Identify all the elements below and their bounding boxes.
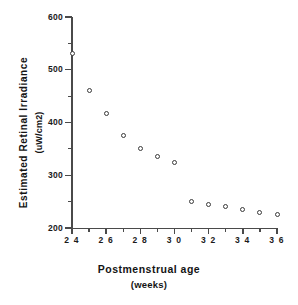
x-tick-major xyxy=(105,228,106,234)
x-tick-major xyxy=(140,228,141,234)
data-point xyxy=(240,207,245,212)
x-tick-label: 3 2 xyxy=(192,236,226,245)
x-axis-title: Postmenstrual age (weeks) xyxy=(0,262,298,292)
data-point xyxy=(138,146,143,151)
x-tick-label: 3 6 xyxy=(260,236,294,245)
x-axis-title-text: Postmenstrual age xyxy=(0,262,298,278)
x-tick-minor xyxy=(123,228,124,232)
x-tick-minor xyxy=(225,228,226,232)
data-points-layer xyxy=(72,17,277,228)
x-tick-minor xyxy=(88,228,89,232)
x-tick-major xyxy=(242,228,243,234)
y-tick-label: 600 xyxy=(31,13,63,22)
data-point xyxy=(121,133,126,138)
x-tick-label: 3 4 xyxy=(226,236,260,245)
data-point xyxy=(206,202,211,207)
y-axis-title-units: (uW/cm2) xyxy=(33,111,43,153)
x-tick-label: 2 4 xyxy=(55,236,89,245)
data-point xyxy=(155,154,160,159)
y-tick-major xyxy=(65,175,72,176)
scatter-chart-figure: 200300400500600 2 42 62 83 03 23 43 6 Es… xyxy=(0,0,298,305)
x-tick-label: 2 8 xyxy=(123,236,157,245)
y-tick-major xyxy=(65,16,72,17)
x-tick-major xyxy=(208,228,209,234)
data-point xyxy=(275,212,280,217)
x-tick-label: 2 6 xyxy=(89,236,123,245)
x-tick-label: 3 0 xyxy=(158,236,192,245)
x-axis-title-units: (weeks) xyxy=(0,278,298,292)
data-point xyxy=(189,199,194,204)
data-point xyxy=(172,160,177,165)
x-tick-major xyxy=(71,228,72,234)
x-tick-minor xyxy=(157,228,158,232)
y-axis-title-text: Estimated Retinal Irradiance xyxy=(18,57,29,208)
data-point xyxy=(104,111,109,116)
data-point xyxy=(87,88,92,93)
data-point xyxy=(223,204,228,209)
x-tick-major xyxy=(276,228,277,234)
y-axis-title: Estimated Retinal Irradiance (uW/cm2) xyxy=(17,38,46,228)
x-tick-major xyxy=(174,228,175,234)
x-tick-minor xyxy=(259,228,260,232)
data-point xyxy=(257,210,262,215)
y-tick-major xyxy=(65,69,72,70)
y-tick-major xyxy=(65,122,72,123)
x-tick-minor xyxy=(191,228,192,232)
